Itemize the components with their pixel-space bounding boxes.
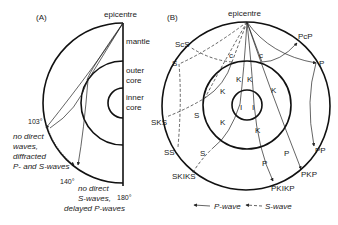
- mantle-label: mantle: [126, 37, 151, 46]
- phase-PKIKP: PKIKP: [271, 184, 295, 193]
- shadow-zone-note: no direct waves, diffracted P- and S-wav…: [13, 132, 69, 171]
- angle-180: 180°: [117, 194, 132, 201]
- svg-text:P- and S-waves: P- and S-waves: [13, 162, 69, 171]
- phase-PKP: PKP: [301, 170, 317, 179]
- far-zone-note: no direct S-waves, delayed P-waves: [64, 184, 125, 213]
- phase-P: P: [319, 59, 324, 68]
- phase-PP: PP: [315, 146, 326, 155]
- ray-K-left-1: [214, 22, 247, 147]
- svg-text:K: K: [247, 75, 253, 84]
- ray-PP: [310, 63, 316, 146]
- svg-text:diffracted: diffracted: [13, 152, 46, 161]
- svg-text:waves,: waves,: [13, 142, 38, 151]
- epicentre-label-b: epicentre: [228, 9, 261, 18]
- panel-b: (B) epicentre ScS S SKS SS SKIKS PcP P P…: [151, 9, 330, 211]
- angle-140: 140°: [60, 178, 75, 185]
- panel-a: (A) epicentre mantle outer core inner co…: [13, 10, 151, 213]
- svg-text:S-waves,: S-waves,: [78, 194, 111, 203]
- legend: P-wave S-wave: [194, 202, 292, 211]
- diffracted-wave-arc: [47, 126, 74, 165]
- inner-core-label-2: core: [126, 103, 142, 112]
- ray-K-left-2: [205, 62, 232, 98]
- svg-text:S: S: [200, 149, 205, 158]
- svg-text:K: K: [255, 126, 261, 135]
- svg-text:K: K: [271, 86, 277, 95]
- s-wave-legend-line: [246, 205, 262, 206]
- phase-SKIKS: SKIKS: [172, 172, 196, 181]
- phase-SKS: SKS: [151, 118, 167, 127]
- angle-103: 103°: [28, 118, 43, 125]
- seismic-wave-diagram: (A) epicentre mantle outer core inner co…: [0, 0, 338, 225]
- inner-core-boundary: [108, 88, 123, 118]
- ray-P: [247, 22, 316, 63]
- ray-ScS: [190, 47, 232, 62]
- p-wave-legend-line: [194, 205, 210, 206]
- ray-PcP: [247, 22, 297, 62]
- segment-labels: c c K K K K K K I I S S P P: [194, 51, 289, 168]
- mantle-boundary: [43, 23, 123, 183]
- phase-S: S: [172, 59, 177, 68]
- svg-text:delayed P-waves: delayed P-waves: [64, 204, 125, 213]
- svg-text:no direct: no direct: [13, 132, 44, 141]
- legend-s-wave: S-wave: [265, 202, 292, 211]
- svg-text:K: K: [220, 118, 226, 127]
- legend-p-wave: P-wave: [214, 202, 241, 211]
- svg-text:P: P: [262, 159, 267, 168]
- outer-core-label-2: core: [126, 76, 142, 85]
- svg-text:I: I: [252, 103, 254, 112]
- svg-text:c: c: [229, 51, 233, 60]
- panel-a-label: (A): [36, 13, 47, 22]
- ray-PKIKP: [247, 22, 273, 181]
- svg-text:no direct: no direct: [78, 184, 109, 193]
- ray-refracted-deep: [50, 80, 88, 128]
- inner-core-label-1: inner: [126, 93, 144, 102]
- inner-core-circle: [232, 90, 262, 120]
- svg-text:K: K: [236, 75, 242, 84]
- outer-core-label-1: outer: [126, 66, 145, 75]
- svg-text:S: S: [194, 111, 199, 120]
- svg-text:P: P: [284, 149, 289, 158]
- outer-core-boundary: [81, 61, 123, 145]
- phase-PcP: PcP: [298, 32, 313, 41]
- ray-SKS: [166, 22, 247, 117]
- svg-text:I: I: [240, 103, 242, 112]
- ray-SS: [178, 64, 180, 147]
- panel-b-label: (B): [167, 13, 178, 22]
- phase-SS: SS: [164, 148, 175, 157]
- svg-text:c: c: [259, 51, 263, 60]
- epicentre-label-a: epicentre: [104, 10, 137, 19]
- svg-text:K: K: [220, 87, 226, 96]
- phase-ScS: ScS: [175, 40, 190, 49]
